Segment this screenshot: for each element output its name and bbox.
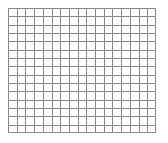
screenshot-canvas (0, 0, 168, 143)
grid-lines-svg (8, 8, 156, 133)
grid-background (8, 8, 156, 133)
graph-paper-grid (8, 8, 156, 133)
